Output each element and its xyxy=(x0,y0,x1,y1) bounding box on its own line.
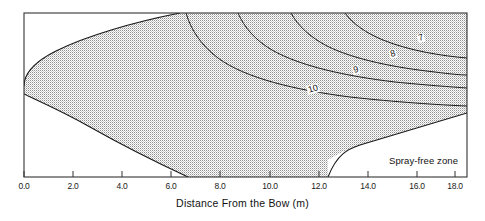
x-tick-label-5: 10.0 xyxy=(262,181,278,191)
x-tick-label-6: 12.0 xyxy=(311,181,327,191)
x-tick-label-2: 4.0 xyxy=(116,181,127,191)
x-tick-label-4: 8.0 xyxy=(214,181,225,191)
x-axis-title: Distance From the Bow (m) xyxy=(0,197,485,209)
x-tick-label-0: 0.0 xyxy=(18,181,29,191)
x-tick-label-8: 16.0 xyxy=(409,181,425,191)
x-tick-label-3: 6.0 xyxy=(165,181,176,191)
spray-zone-shading xyxy=(24,13,467,177)
spray-free-zone-label: Spray-free zone xyxy=(389,155,458,166)
contour-plot-figure: 0.0 2.0 4.0 6.0 8.0 10.0 12.0 14.0 16.0 … xyxy=(0,0,485,221)
x-tick-label-9: 18.0 xyxy=(447,181,463,191)
x-tick-label-1: 2.0 xyxy=(67,181,78,191)
x-tick-label-7: 14.0 xyxy=(360,181,376,191)
